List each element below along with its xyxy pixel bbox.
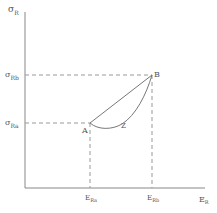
y-axis-label: σR bbox=[8, 4, 19, 16]
sigma-rb-label: σRb bbox=[5, 70, 19, 81]
point-b-label: B bbox=[154, 70, 160, 79]
x-axis-label: ER bbox=[199, 195, 209, 205]
sigma-ra-label: σRa bbox=[5, 118, 19, 129]
e-rb-label: ERb bbox=[147, 194, 159, 203]
point-a-label: A bbox=[81, 126, 88, 135]
e-ra-label: ERa bbox=[85, 194, 97, 203]
curve-z-label: Z bbox=[121, 122, 126, 130]
diagram-canvas: σR ER σRb σRa ERa ERb A B Z bbox=[0, 0, 217, 213]
curve-z bbox=[90, 75, 152, 128]
